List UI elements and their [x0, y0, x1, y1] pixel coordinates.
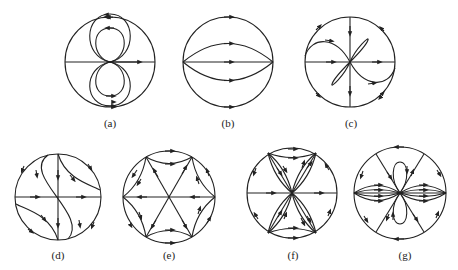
panel-a-diagram	[65, 14, 155, 107]
panel-f-diagram	[247, 148, 337, 238]
panel-g-label: (g)	[399, 249, 412, 261]
panel-c-diagram	[305, 17, 395, 107]
panel-e-diagram	[123, 151, 215, 243]
panel-a-label: (a)	[104, 117, 116, 129]
panel-e-label: (e)	[163, 249, 175, 261]
phase-portrait-figure	[0, 0, 458, 270]
panel-b-label: (b)	[222, 117, 235, 129]
panel-c-label: (c)	[345, 117, 357, 129]
panel-b-diagram	[183, 17, 273, 107]
panel-g-diagram	[354, 147, 446, 239]
panel-d-diagram	[15, 154, 101, 240]
panel-d-label: (d)	[52, 249, 65, 261]
panel-f-label: (f)	[288, 249, 299, 261]
